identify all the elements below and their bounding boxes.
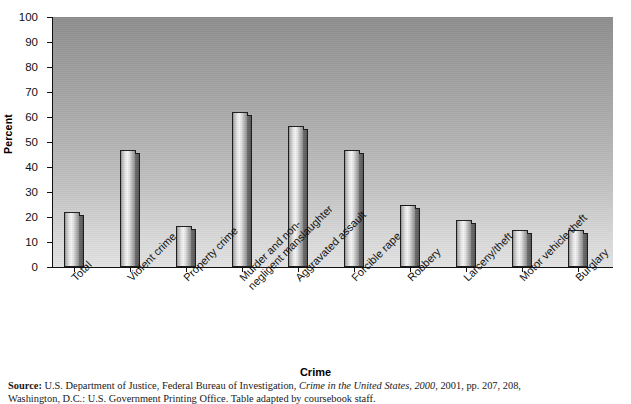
y-axis-tick: 70 [47, 92, 53, 93]
bar-side-shadow [135, 153, 140, 268]
bar-chart-figure: Percent 0102030405060708090100 Crime Sou… [0, 0, 631, 404]
bar-face [400, 205, 416, 268]
y-axis-tick: 90 [47, 42, 53, 43]
y-axis-tick-label: 100 [19, 12, 38, 24]
y-axis-tick-label: 50 [25, 137, 38, 149]
y-axis-tick: 0 [47, 267, 53, 268]
source-label: Source: [8, 380, 42, 391]
y-axis-tick-label: 20 [25, 212, 38, 224]
y-axis-tick: 50 [47, 142, 53, 143]
bar-face [456, 220, 472, 268]
bar-side-shadow [303, 129, 308, 267]
source-line2: Washington, D.C.: U.S. Government Printi… [8, 393, 624, 404]
x-axis-title: Crime [0, 366, 631, 378]
y-axis-tick: 80 [47, 67, 53, 68]
plot-area: 0102030405060708090100 [52, 17, 613, 268]
y-axis-tick: 100 [47, 17, 53, 18]
y-axis-tick-label: 30 [25, 187, 38, 199]
source-line1: U.S. Department of Justice, Federal Bure… [42, 380, 299, 391]
y-axis-tick: 40 [47, 167, 53, 168]
y-axis-tick-label: 80 [25, 62, 38, 74]
bar [344, 150, 364, 268]
bar-face [64, 212, 80, 267]
y-axis-tick: 20 [47, 217, 53, 218]
bar [232, 112, 252, 267]
y-axis-tick: 30 [47, 192, 53, 193]
y-axis-tick-label: 0 [32, 262, 38, 274]
bar-face [344, 150, 360, 268]
bar-face [176, 226, 192, 267]
bar-face [232, 112, 248, 267]
y-axis-tick: 10 [47, 242, 53, 243]
y-axis-tick-label: 10 [25, 237, 38, 249]
bar [176, 226, 196, 267]
y-axis-tick-label: 40 [25, 162, 38, 174]
bar [120, 150, 140, 268]
y-axis-tick-label: 70 [25, 87, 38, 99]
bar [400, 205, 420, 268]
bar-side-shadow [415, 208, 420, 268]
y-axis-tick: 60 [47, 117, 53, 118]
bar [456, 220, 476, 268]
source-line1b: 2001, pp. 207, 208, [438, 380, 521, 391]
y-axis-tick-label: 90 [25, 37, 38, 49]
source-title-italic: Crime in the United States, 2000, [299, 380, 438, 391]
bar [64, 212, 84, 267]
bar-face [512, 230, 528, 268]
y-axis-title: Percent [2, 104, 14, 164]
source-note: Source: U.S. Department of Justice, Fede… [8, 380, 624, 404]
bar-side-shadow [247, 115, 252, 267]
y-axis-tick-label: 60 [25, 112, 38, 124]
bar-face [120, 150, 136, 268]
